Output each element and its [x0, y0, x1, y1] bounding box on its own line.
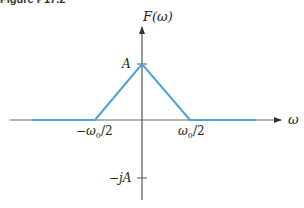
x-axis-label: ω [288, 112, 299, 127]
y-axis-label-text: F(ω) [142, 9, 173, 24]
peak-label-text: A [121, 57, 131, 71]
spectrum-diagram: F(ω) ω A −jA −ω0/2 ω0/2 [0, 0, 304, 208]
x-axis-label-text: ω [288, 112, 299, 127]
neg-imag-label-text: −jA [109, 171, 132, 185]
right-base-omega: ω [178, 124, 188, 138]
neg-imag-label: −jA [109, 171, 132, 185]
left-base-omega: −ω [76, 124, 96, 138]
left-base-label: −ω0/2 [76, 124, 113, 140]
spectrum-curve [32, 64, 256, 120]
left-base-tail: /2 [101, 124, 113, 138]
right-base-tail: /2 [193, 124, 205, 138]
peak-label: A [121, 57, 131, 71]
y-axis-label: F(ω) [142, 9, 173, 24]
right-base-label: ω0/2 [178, 124, 205, 140]
